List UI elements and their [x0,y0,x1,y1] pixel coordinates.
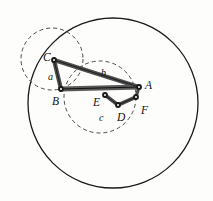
circle-group [21,18,198,188]
linkage-diagram: CBAEDF abc [0,0,213,201]
joint-B-hole [60,88,62,90]
point-label-A: A [145,80,152,92]
point-label-F: F [141,105,148,117]
diagram-canvas [0,0,213,201]
point-label-E: E [93,97,100,109]
link-label-a: a [48,72,53,82]
joint-F-hole [135,96,137,98]
point-label-B: B [52,96,59,108]
link-D-F-edge [118,97,136,105]
link-C-B-edge [54,60,61,89]
joint-D-hole [117,104,119,106]
link-label-b: b [101,68,106,78]
point-label-C: C [43,52,51,64]
joint-A-hole [138,86,140,88]
joint-E-hole [104,94,106,96]
point-label-D: D [117,112,125,124]
link-label-c: c [99,113,103,123]
joint-C-hole [53,59,55,61]
